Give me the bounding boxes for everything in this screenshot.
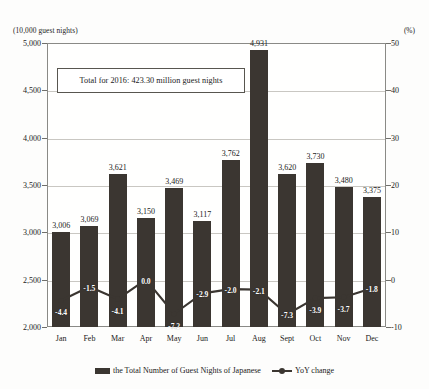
y-axis-tick-label: 5,000 — [0, 39, 41, 48]
bar-swatch-icon — [95, 368, 110, 374]
x-axis-tick-label: Sept — [280, 334, 294, 343]
secondary-y-axis-tick-mark — [386, 280, 391, 281]
yoy-data-point — [59, 298, 64, 303]
secondary-y-axis-tick-mark — [386, 43, 391, 44]
yoy-value-label: -4.4 — [55, 308, 67, 317]
left-axis-unit-label: (10,000 guest nights) — [13, 26, 78, 35]
secondary-y-axis-tick-mark — [386, 327, 391, 328]
x-axis-tick-label: Nov — [337, 334, 351, 343]
right-axis-unit-label: (%) — [404, 26, 415, 35]
x-axis-tick-label: Oct — [310, 334, 322, 343]
yoy-value-label: -2.0 — [225, 286, 237, 295]
yoy-value-label: 0.0 — [141, 277, 151, 286]
bar-value-label: 4,931 — [250, 39, 268, 48]
y-axis-tick-mark — [42, 327, 47, 328]
secondary-y-axis-tick-mark — [386, 232, 391, 233]
secondary-y-axis-tick-mark — [386, 138, 391, 139]
secondary-y-axis-tick-mark — [386, 185, 391, 186]
bar-value-label: 3,762 — [222, 149, 240, 158]
yoy-value-label: -2.9 — [196, 290, 208, 299]
x-axis-tick-label: Dec — [365, 334, 378, 343]
legend-label-line: YoY change — [295, 366, 334, 375]
x-axis-tick-label: Aug — [252, 334, 266, 343]
yoy-value-label: -3.9 — [309, 306, 321, 315]
legend-label-bars: the Total Number of Guest Nights of Japa… — [113, 366, 261, 375]
yoy-data-point — [341, 295, 346, 300]
y-axis-tick-label: 3,000 — [0, 228, 41, 237]
bar-value-label: 3,469 — [165, 177, 183, 186]
bar-value-label: 3,620 — [278, 163, 296, 172]
legend-item-line: YoY change — [272, 366, 334, 375]
x-axis-tick-label: Mar — [111, 334, 124, 343]
secondary-y-axis-tick-label: 0 — [391, 275, 421, 284]
yoy-value-label: -3.7 — [338, 305, 350, 314]
bar-value-label: 3,150 — [137, 207, 155, 216]
yoy-line-path — [61, 280, 372, 315]
yoy-value-label: -1.5 — [83, 284, 95, 293]
y-axis-tick-label: 2,000 — [0, 323, 41, 332]
x-axis-tick-label: Jul — [226, 334, 235, 343]
yoy-value-label: -7.3 — [281, 311, 293, 320]
bar-value-label: 3,006 — [52, 221, 70, 230]
bar-value-label: 3,117 — [194, 210, 212, 219]
total-callout-text: Total for 2016: 423.30 million guest nig… — [80, 76, 223, 85]
bar-value-label: 3,621 — [109, 163, 127, 172]
yoy-value-label: -7.2 — [168, 322, 180, 331]
yoy-data-point — [313, 296, 318, 301]
secondary-y-axis-tick-label: 20 — [391, 181, 421, 190]
x-axis-tick-label: Jun — [197, 334, 208, 343]
x-axis-tick-label: Apr — [140, 334, 152, 343]
yoy-data-point — [172, 311, 177, 316]
y-axis-tick-label: 2,500 — [0, 275, 41, 284]
chart-container: (10,000 guest nights) (%) 2,0002,5003,00… — [0, 0, 429, 389]
secondary-y-axis-tick-label: 30 — [391, 133, 421, 142]
bar-value-label: 3,480 — [335, 176, 353, 185]
bar-value-label: 3,375 — [363, 186, 381, 195]
legend-item-bars: the Total Number of Guest Nights of Japa… — [95, 366, 261, 375]
yoy-value-label: -2.1 — [253, 287, 265, 296]
secondary-y-axis-tick-label: 50 — [391, 39, 421, 48]
x-axis-tick-label: May — [167, 334, 182, 343]
secondary-y-axis-tick-mark — [386, 90, 391, 91]
yoy-value-label: -1.8 — [366, 285, 378, 294]
yoy-data-point — [115, 296, 120, 301]
line-swatch-icon — [272, 367, 292, 374]
y-axis-tick-label: 4,000 — [0, 133, 41, 142]
total-callout-box: Total for 2016: 423.30 million guest nig… — [57, 68, 245, 93]
secondary-y-axis-tick-label: 40 — [391, 86, 421, 95]
y-axis-tick-label: 3,500 — [0, 181, 41, 190]
bar-value-label: 3,730 — [306, 152, 324, 161]
x-axis-tick-label: Jan — [56, 334, 67, 343]
x-axis-tick-label: Feb — [83, 334, 95, 343]
bar-value-label: 3,069 — [80, 215, 98, 224]
y-axis-tick-label: 4,500 — [0, 86, 41, 95]
secondary-y-axis-tick-label: 10 — [391, 228, 421, 237]
secondary-y-axis-tick-label: -10 — [391, 323, 421, 332]
chart-legend: the Total Number of Guest Nights of Japa… — [0, 366, 429, 375]
yoy-value-label: -4.1 — [112, 307, 124, 316]
